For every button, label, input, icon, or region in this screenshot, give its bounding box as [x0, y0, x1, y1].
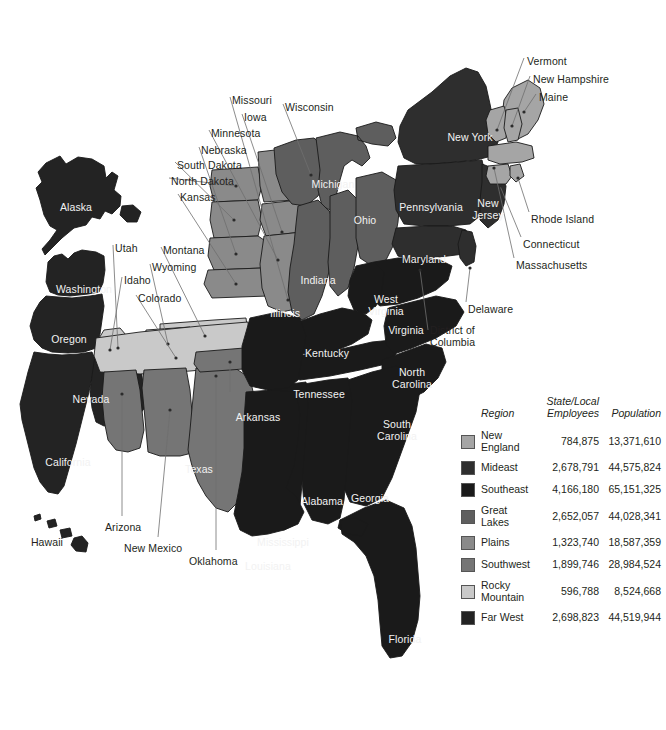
legend-header-row: Region State/LocalEmployees Population	[461, 396, 661, 426]
legend-swatch-cell	[461, 607, 481, 629]
legend-header-region: Region	[481, 396, 537, 426]
state-arizona	[102, 370, 144, 452]
legend-header-swatch	[461, 396, 481, 426]
legend-row: Southeast4,166,18065,151,325	[461, 479, 661, 501]
state-washington	[46, 250, 105, 296]
legend-color-swatch	[461, 483, 475, 497]
leader-dot-23	[214, 374, 217, 377]
state-florida	[338, 500, 420, 658]
legend-employees-value: 784,875	[537, 426, 599, 457]
state-oregon	[30, 294, 104, 353]
legend-row: Far West2,698,82344,519,944	[461, 607, 661, 629]
legend-region-label: Southwest	[481, 554, 537, 576]
leader-dot-4	[498, 184, 501, 187]
legend-population-value: 44,519,944	[599, 607, 661, 629]
state-newmexico	[142, 368, 196, 456]
state-louisiana	[234, 390, 304, 536]
leader-dot-2	[522, 110, 525, 113]
legend-color-swatch	[461, 558, 475, 572]
legend: Region State/LocalEmployees Population N…	[461, 396, 661, 629]
legend-population-value: 44,575,824	[599, 457, 661, 479]
legend-swatch-cell	[461, 532, 481, 554]
leader-line-6	[466, 268, 470, 302]
leader-dot-21	[120, 392, 123, 395]
state-hawaii	[34, 514, 88, 552]
leader-line-3	[518, 178, 529, 212]
state-connecticut	[486, 164, 512, 184]
leader-dot-3	[516, 176, 519, 179]
state-pennsylvania	[394, 160, 486, 226]
legend-color-swatch	[461, 585, 475, 599]
legend-swatch-cell	[461, 479, 481, 501]
legend-region-label: Great Lakes	[481, 501, 537, 532]
legend-region-label: Far West	[481, 607, 537, 629]
legend-population-value: 65,151,325	[599, 479, 661, 501]
legend-population-value: 13,371,610	[599, 426, 661, 457]
legend-population-value: 44,028,341	[599, 501, 661, 532]
legend-employees-value: 2,678,791	[537, 457, 599, 479]
state-georgia	[340, 366, 420, 506]
legend-row: Southwest1,899,74628,984,524	[461, 554, 661, 576]
legend-employees-value: 2,698,823	[537, 607, 599, 629]
legend-population-value: 28,984,524	[599, 554, 661, 576]
legend-color-swatch	[461, 510, 475, 524]
leader-dot-8	[286, 298, 289, 301]
legend-employees-value: 4,166,180	[537, 479, 599, 501]
leader-dot-7	[418, 268, 421, 271]
leader-dot-6	[468, 266, 471, 269]
leader-dot-14	[234, 184, 237, 187]
legend-employees-value: 2,652,057	[537, 501, 599, 532]
leader-dot-17	[203, 334, 206, 337]
legend-region-label: Rocky Mountain	[481, 576, 537, 607]
legend-employees-value: 596,788	[537, 576, 599, 607]
legend-region-label: Plains	[481, 532, 537, 554]
legend-swatch-cell	[461, 426, 481, 457]
state-ohio	[356, 172, 400, 266]
leader-dot-9	[280, 230, 283, 233]
legend-region-label: Mideast	[481, 457, 537, 479]
leader-dot-12	[234, 252, 237, 255]
legend-population-value: 18,587,359	[599, 532, 661, 554]
legend-swatch-cell	[461, 576, 481, 607]
state-rhodeisland	[510, 164, 524, 182]
leader-dot-13	[232, 218, 235, 221]
legend-row: Mideast2,678,79144,575,824	[461, 457, 661, 479]
legend-swatch-cell	[461, 501, 481, 532]
state-alaska	[36, 156, 141, 255]
leader-dot-10	[309, 173, 312, 176]
legend-row: New England784,87513,371,610	[461, 426, 661, 457]
legend-population-value: 8,524,668	[599, 576, 661, 607]
legend-row: Great Lakes2,652,05744,028,341	[461, 501, 661, 532]
legend-color-swatch	[461, 611, 475, 625]
legend-table: Region State/LocalEmployees Population N…	[461, 396, 661, 629]
leader-line-4	[500, 186, 521, 237]
legend-header-employees: State/LocalEmployees	[537, 396, 599, 426]
us-region-map: AlaskaHawaiiWashingtonOregonNevadaCalifo…	[0, 0, 666, 730]
legend-employees-value: 1,899,746	[537, 554, 599, 576]
leader-dot-15	[234, 282, 237, 285]
legend-color-swatch	[461, 536, 475, 550]
state-newyork	[398, 68, 498, 164]
state-massachusetts	[488, 142, 534, 164]
leader-dot-16	[116, 346, 119, 349]
legend-swatch-cell	[461, 457, 481, 479]
legend-row: Rocky Mountain596,7888,524,668	[461, 576, 661, 607]
legend-header-population: Population	[599, 396, 661, 426]
legend-body: New England784,87513,371,610Mideast2,678…	[461, 426, 661, 629]
legend-color-swatch	[461, 461, 475, 475]
state-delaware	[458, 230, 476, 266]
state-california	[20, 352, 96, 494]
leader-dot-24	[228, 360, 231, 363]
state-alabama	[302, 378, 352, 524]
leader-dot-22	[168, 408, 171, 411]
state-southdakota	[210, 200, 262, 238]
leader-dot-0	[495, 128, 498, 131]
leader-dot-1	[510, 124, 513, 127]
leader-dot-5	[492, 166, 495, 169]
legend-color-swatch	[461, 435, 475, 449]
state-arkansas	[242, 312, 306, 390]
leader-dot-11	[276, 258, 279, 261]
legend-swatch-cell	[461, 554, 481, 576]
leader-dot-19	[108, 348, 111, 351]
legend-region-label: New England	[481, 426, 537, 457]
